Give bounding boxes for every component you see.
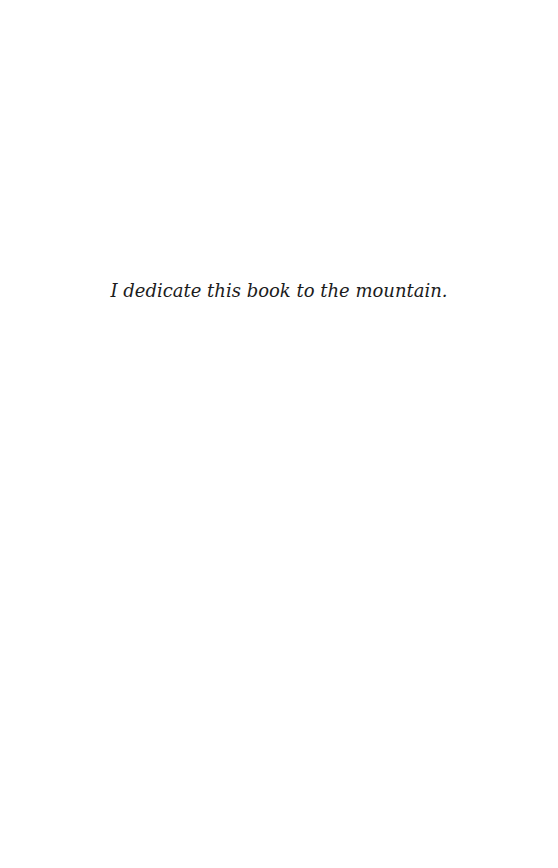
book-page: I dedicate this book to the mountain. <box>0 0 558 868</box>
dedication-text: I dedicate this book to the mountain. <box>0 279 558 303</box>
